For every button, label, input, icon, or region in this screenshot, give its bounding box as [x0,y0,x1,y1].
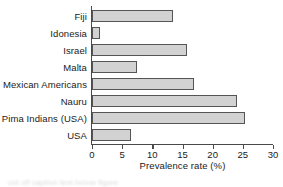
plot-area [92,8,273,144]
y-axis-label-usa: USA [0,127,87,144]
y-axis-label-pima-indians-usa: Pima Indians (USA) [0,110,87,127]
bar-fiji [92,10,173,22]
y-axis-category-labels: Fiji Idonesia Israel Malta Mexican Ameri… [0,8,87,144]
bar-row [92,25,273,42]
figure-caption-ghost: cut off caption text below figure [8,178,276,187]
bar-row [92,8,273,25]
bar-row [92,93,273,110]
bar-chart: Fiji Idonesia Israel Malta Mexican Ameri… [0,0,283,187]
bar-row [92,110,273,127]
y-axis-line [91,6,92,145]
y-axis-label-mexican-americans: Mexican Americans [0,76,87,93]
bar-mexican-americans [92,78,194,90]
bar-malta [92,61,137,73]
bar-row [92,76,273,93]
bar-idonesia [92,27,100,39]
bar-usa [92,129,131,141]
bar-row [92,127,273,144]
y-axis-label-fiji: Fiji [0,8,87,25]
x-axis-ticks: 051015202530 [0,145,283,161]
bar-row [92,42,273,59]
y-axis-label-idonesia: Idonesia [0,25,87,42]
y-axis-label-nauru: Nauru [0,93,87,110]
bar-row [92,59,273,76]
bar-nauru [92,95,237,107]
y-axis-label-israel: Israel [0,42,87,59]
bar-pima-indians-usa [92,112,245,124]
y-axis-label-malta: Malta [0,59,87,76]
bar-israel [92,44,187,56]
x-axis-title: Prevalence rate (%) [92,160,273,171]
